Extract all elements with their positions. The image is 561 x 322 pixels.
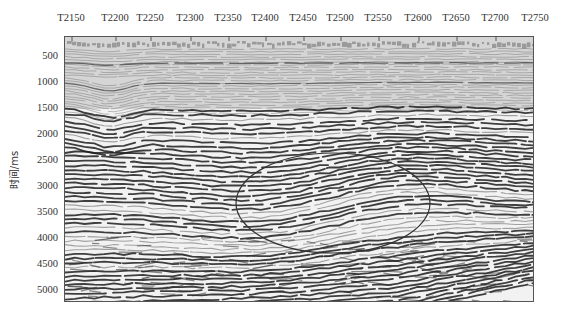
y-tick-label: 3000 [22,180,58,191]
y-tick-label: 5000 [22,284,58,295]
x-tick-label: T2200 [101,12,128,23]
x-tick-label: T2350 [214,12,241,23]
x-tick-label: T2150 [57,12,84,23]
seismic-figure: T2150T2200T2250T2300T2350T2400T2450T2500… [0,0,561,322]
x-tick-label: T2550 [364,12,391,23]
y-tick-label: 2500 [22,154,58,165]
y-tick-label: 3500 [22,206,58,217]
x-tick-label: T2500 [326,12,353,23]
y-tick-label: 4500 [22,258,58,269]
x-tick-label: T2450 [289,12,316,23]
y-tick-label: 4000 [22,232,58,243]
x-tick-label: T2250 [136,12,163,23]
seismic-section-image [65,37,534,302]
y-axis-label: 时间/ms [6,140,21,200]
y-tick-label: 500 [22,50,58,61]
y-tick-label: 1500 [22,102,58,113]
x-tick-label: T2700 [481,12,508,23]
x-tick-label: T2650 [442,12,469,23]
seismic-plot-area [64,36,534,302]
y-tick-label: 1000 [22,76,58,87]
x-tick-label: T2300 [176,12,203,23]
x-tick-label: T2600 [404,12,431,23]
y-tick-label: 2000 [22,128,58,139]
x-tick-label: T2750 [521,12,548,23]
x-tick-label: T2400 [251,12,278,23]
